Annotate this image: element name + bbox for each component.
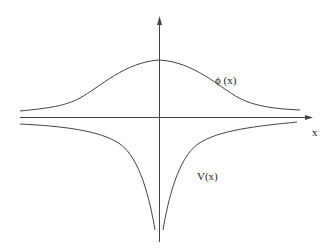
y-axis-arrow-icon: [157, 16, 162, 25]
x-axis: [20, 115, 313, 120]
y-axis: [157, 16, 162, 242]
x-axis-label: x: [312, 126, 318, 138]
potential-label: V(x): [197, 170, 218, 183]
potential-curve-left: [20, 124, 155, 230]
phi-label: ϕ (x): [215, 74, 237, 87]
potential-curve-right: [163, 122, 297, 230]
x-axis-arrow-icon: [305, 115, 313, 120]
diagram-figure: ϕ (x) x V(x): [0, 0, 333, 252]
